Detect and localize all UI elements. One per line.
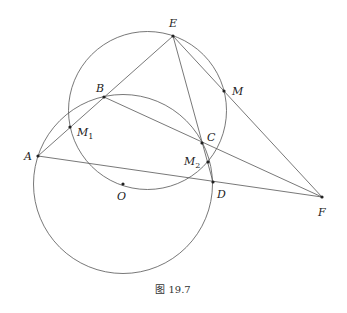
label-o: O: [117, 190, 126, 203]
figure-caption: 图 19.7: [155, 284, 190, 295]
label-e: E: [168, 17, 177, 30]
segment-a-f: [38, 156, 322, 197]
point-m1: [68, 125, 71, 128]
label-m2: M2: [183, 155, 200, 170]
label-d: D: [216, 188, 226, 201]
points: [36, 34, 323, 198]
geometry-figure: ABEMM1CM2DOF 图 19.7: [0, 0, 347, 313]
point-m: [222, 89, 225, 92]
point-d: [211, 180, 214, 183]
label-m: M: [231, 85, 244, 98]
point-o: [121, 182, 124, 185]
label-b: B: [95, 82, 104, 95]
segments: [38, 36, 322, 197]
point-c: [200, 141, 203, 144]
label-m1: M1: [76, 126, 93, 141]
label-a: A: [23, 150, 32, 163]
point-m2: [206, 160, 209, 163]
point-e: [171, 34, 174, 37]
segment-a-e: [38, 36, 173, 156]
point-labels: ABEMM1CM2DOF: [23, 17, 326, 219]
point-a: [36, 154, 39, 157]
label-f: F: [317, 206, 326, 219]
circle-EBC: [69, 32, 227, 190]
point-b: [102, 95, 105, 98]
point-f: [320, 195, 323, 198]
circles: [34, 32, 227, 274]
label-c: C: [207, 131, 216, 144]
